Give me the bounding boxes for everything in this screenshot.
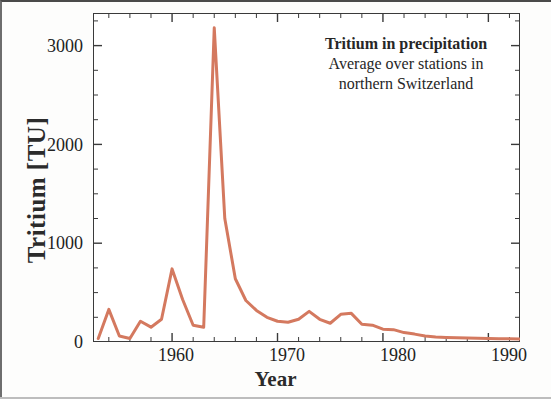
x-tick-label-1960: 1960 xyxy=(136,345,216,366)
annotation-line-3: northern Switzerland xyxy=(292,74,520,94)
x-tick-label-1970: 1970 xyxy=(247,345,327,366)
x-tick-label-1990: 1990 xyxy=(469,345,549,366)
chart-annotation: Tritium in precipitation Average over st… xyxy=(292,34,520,94)
figure-container: Tritium [TU] Year 0 1000 2000 3000 1960 … xyxy=(0,0,551,399)
x-tick-label-1980: 1980 xyxy=(358,345,438,366)
annotation-title: Tritium in precipitation xyxy=(292,34,520,54)
y-tick-label-0: 0 xyxy=(9,332,83,353)
y-axis-title: Tritium [TU] xyxy=(23,75,51,305)
annotation-line-2: Average over stations in xyxy=(292,54,520,74)
y-tick-label-3000: 3000 xyxy=(9,36,83,57)
y-tick-label-2000: 2000 xyxy=(9,135,83,156)
x-axis-title: Year xyxy=(0,367,551,392)
y-tick-label-1000: 1000 xyxy=(9,233,83,254)
